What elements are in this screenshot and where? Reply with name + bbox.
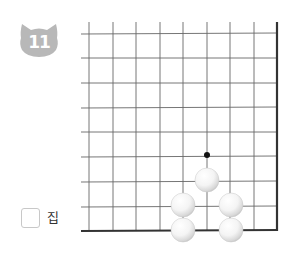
white-stone[interactable] [219, 193, 243, 217]
point-marker-dot [204, 152, 210, 158]
white-stone[interactable] [171, 193, 195, 217]
white-stone[interactable] [219, 218, 243, 242]
white-stone[interactable] [171, 218, 195, 242]
go-board [0, 0, 297, 253]
white-stone[interactable] [195, 168, 219, 192]
